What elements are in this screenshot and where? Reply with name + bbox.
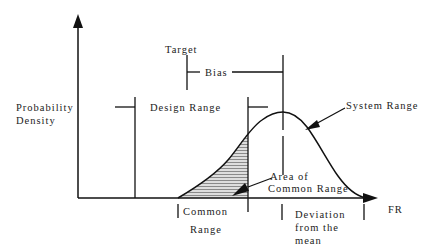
system-range-arrow-icon: [305, 120, 320, 130]
deviation-label-line1: Deviation: [295, 209, 345, 220]
y-axis-label-line2: Density: [16, 115, 56, 126]
common-range-label-line2: Range: [190, 224, 222, 235]
common-range-label-line1: Common: [183, 206, 228, 217]
area-label-line1: Area of: [270, 171, 309, 182]
deviation-label-line2: from the: [295, 222, 339, 233]
deviation-label-line3: mean: [295, 235, 322, 246]
design-range-label: Design Range: [150, 102, 221, 113]
bias-label: Bias: [205, 67, 228, 78]
system-range-label: System Range: [346, 100, 418, 111]
x-axis-label: FR: [388, 204, 403, 215]
common-range-area: [178, 133, 248, 198]
y-axis-arrow-icon: [73, 14, 83, 28]
y-axis-label-line1: Probability: [16, 102, 74, 113]
design-range-diagram: Probability Density Target Bias Design R…: [0, 0, 429, 251]
area-label-line2: Common Range: [268, 183, 349, 194]
target-label: Target: [165, 44, 197, 55]
